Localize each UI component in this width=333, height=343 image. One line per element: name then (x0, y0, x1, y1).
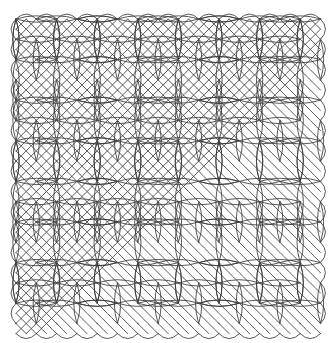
grid-dot (15, 262, 17, 264)
grid-dot (299, 140, 301, 142)
grid-dot (96, 201, 98, 203)
grid-dot (36, 59, 38, 61)
grid-dot (76, 262, 78, 264)
grid-dot (96, 160, 98, 162)
grid-dot (36, 181, 38, 183)
grid-dot (239, 59, 241, 61)
grid-dot (117, 39, 119, 41)
grid-dot (279, 323, 281, 325)
grid-dot (259, 18, 261, 20)
grid-dot (117, 323, 119, 325)
grid-dot (36, 282, 38, 284)
grid-dot (15, 160, 17, 162)
grid-dot (178, 201, 180, 203)
grid-dot (56, 140, 58, 142)
grid-dot (56, 18, 58, 20)
grid-dot (259, 242, 261, 244)
grid-dot (259, 282, 261, 284)
grid-dot (137, 242, 139, 244)
grid-dot (279, 79, 281, 81)
grid-dot (56, 59, 58, 61)
grid-dot (178, 18, 180, 20)
grid-dot (279, 242, 281, 244)
grid-dot (178, 99, 180, 101)
grid-dot (178, 242, 180, 244)
grid-dot (137, 39, 139, 41)
grid-dot (299, 262, 301, 264)
grid-dot (320, 99, 322, 101)
grid-dot (96, 140, 98, 142)
grid-dot (56, 201, 58, 203)
grid-dot (218, 323, 220, 325)
grid-dot (76, 99, 78, 101)
grid-dot (178, 181, 180, 183)
grid-dot (15, 59, 17, 61)
grid-dot (178, 59, 180, 61)
grid-dot (198, 323, 200, 325)
grid-dot (157, 140, 159, 142)
grid-dot (239, 120, 241, 122)
grid-dot (279, 201, 281, 203)
grid-dot (36, 242, 38, 244)
grid-dot (117, 59, 119, 61)
grid-dot (299, 282, 301, 284)
grid-dot (259, 140, 261, 142)
grid-dot (56, 262, 58, 264)
grid-dot (198, 18, 200, 20)
grid-dot (178, 120, 180, 122)
grid-dot (178, 302, 180, 304)
grid-dot (239, 323, 241, 325)
grid-dot (36, 160, 38, 162)
grid-dot (178, 79, 180, 81)
grid-dot (239, 99, 241, 101)
grid-dot (279, 120, 281, 122)
grid-dot (117, 181, 119, 183)
grid-dot (96, 79, 98, 81)
grid-dot (96, 221, 98, 223)
grid-dot (76, 79, 78, 81)
grid-dot (218, 181, 220, 183)
grid-dot (218, 59, 220, 61)
grid-dot (15, 39, 17, 41)
grid-dot (218, 39, 220, 41)
grid-dot (320, 302, 322, 304)
grid-dot (137, 160, 139, 162)
grid-dot (218, 221, 220, 223)
grid-dot (56, 160, 58, 162)
grid-dot (137, 18, 139, 20)
grid-dot (239, 18, 241, 20)
grid-dot (15, 221, 17, 223)
grid-dot (279, 39, 281, 41)
grid-dot (137, 120, 139, 122)
grid-dot (279, 302, 281, 304)
grid-dot (259, 99, 261, 101)
grid-dot (198, 221, 200, 223)
grid-dot (239, 242, 241, 244)
grid-dot (36, 79, 38, 81)
grid-dot (56, 282, 58, 284)
grid-dot (96, 262, 98, 264)
grid-dot (279, 140, 281, 142)
grid-dot (56, 302, 58, 304)
grid-dot (117, 302, 119, 304)
grid-dot (198, 140, 200, 142)
grid-dot (117, 18, 119, 20)
grid-dot (198, 79, 200, 81)
grid-dot (56, 99, 58, 101)
grid-dot (76, 59, 78, 61)
grid-dot (76, 18, 78, 20)
grid-dot (279, 282, 281, 284)
grid-dot (178, 39, 180, 41)
grid-dot (320, 18, 322, 20)
grid-dot (15, 201, 17, 203)
grid-dot (299, 39, 301, 41)
grid-dot (157, 221, 159, 223)
grid-dot (157, 302, 159, 304)
grid-dot (259, 201, 261, 203)
grid-dot (15, 99, 17, 101)
grid-dot (96, 282, 98, 284)
grid-dot (299, 99, 301, 101)
grid-dot (259, 59, 261, 61)
grid-dot (259, 39, 261, 41)
grid-dot (198, 160, 200, 162)
